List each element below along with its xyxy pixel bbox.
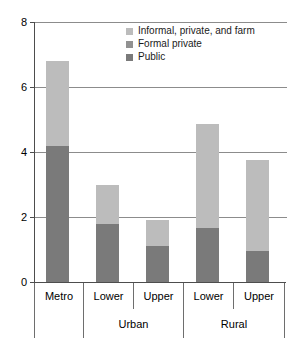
x-axis-category-row: Metro Lower Upper Lower Upper	[34, 283, 286, 309]
legend-item-public[interactable]: Public	[126, 51, 255, 63]
stacked-bar-chart: 0 2 4 6 8	[0, 0, 297, 349]
x-axis-label-urban-upper: Upper	[134, 283, 184, 309]
legend-label-public: Public	[138, 51, 165, 63]
bar-segment-informal[interactable]	[46, 61, 69, 146]
x-axis-group-urban: Urban	[84, 309, 184, 338]
y-axis-label-8: 8	[21, 17, 27, 28]
bar-segment-informal[interactable]	[146, 220, 169, 246]
bar-rural-lower[interactable]	[196, 124, 219, 282]
chart-legend: Informal, private, and farm Formal priva…	[126, 25, 255, 64]
legend-label-informal: Informal, private, and farm	[138, 25, 255, 37]
x-axis-group-blank	[34, 309, 84, 338]
legend-label-formal: Formal private	[138, 38, 202, 50]
bar-segment-public[interactable]	[246, 251, 269, 282]
y-axis-label-0: 0	[21, 277, 27, 288]
y-axis-label-2: 2	[21, 212, 27, 223]
x-axis-label-urban-lower: Lower	[84, 283, 134, 309]
x-axis-label-rural-upper: Upper	[234, 283, 285, 309]
x-axis-group-rural: Rural	[184, 309, 285, 338]
legend-item-informal[interactable]: Informal, private, and farm	[126, 25, 255, 37]
bar-urban-lower[interactable]	[96, 185, 119, 283]
bar-metro[interactable]	[46, 61, 69, 282]
legend-swatch-icon	[126, 41, 133, 48]
bar-segment-public[interactable]	[196, 228, 219, 282]
y-axis-label-6: 6	[21, 82, 27, 93]
x-axis-group-row: Urban Rural	[34, 309, 286, 338]
bar-segment-public[interactable]	[96, 224, 119, 283]
legend-item-formal[interactable]: Formal private	[126, 38, 255, 50]
legend-swatch-icon	[126, 54, 133, 61]
bar-segment-informal[interactable]	[196, 124, 219, 228]
x-axis-label-rural-lower: Lower	[184, 283, 234, 309]
x-axis-label-metro: Metro	[34, 283, 84, 309]
legend-swatch-icon	[126, 28, 133, 35]
y-axis-label-4: 4	[21, 147, 27, 158]
bar-rural-upper[interactable]	[246, 160, 269, 282]
bar-segment-informal[interactable]	[246, 160, 269, 251]
bar-urban-upper[interactable]	[146, 220, 169, 282]
bar-segment-informal[interactable]	[96, 185, 119, 224]
bar-segment-public[interactable]	[46, 146, 69, 283]
bar-segment-public[interactable]	[146, 246, 169, 282]
x-axis-label-table: Metro Lower Upper Lower Upper Urban Rura…	[34, 282, 286, 338]
